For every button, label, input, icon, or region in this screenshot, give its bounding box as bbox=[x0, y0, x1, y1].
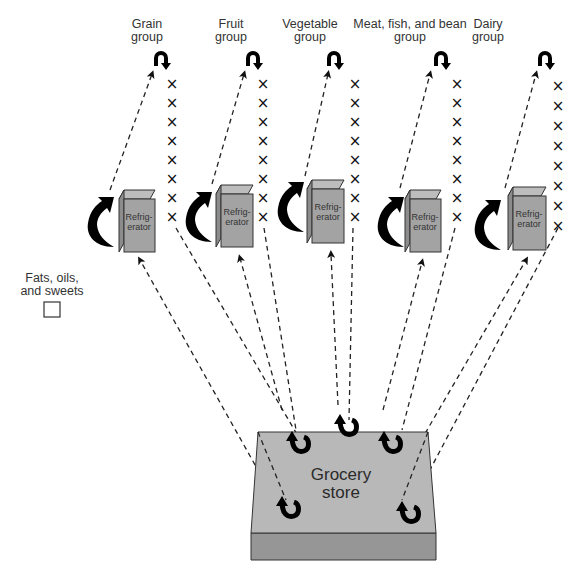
svg-text:×: × bbox=[552, 77, 565, 95]
svg-text:Refrig-: Refrig- bbox=[411, 212, 438, 222]
consume-curl-icon bbox=[540, 53, 555, 70]
svg-text:Grocery: Grocery bbox=[311, 465, 372, 484]
fruit-x-marks: ×× ×× ×× ×× bbox=[257, 75, 270, 226]
svg-text:×: × bbox=[166, 170, 179, 188]
svg-text:×: × bbox=[451, 132, 464, 150]
food-flow-diagram: Graingroup Fruitgroup Vegetablegroup Mea… bbox=[0, 0, 579, 584]
consume-curl-icon bbox=[248, 53, 263, 70]
svg-text:store: store bbox=[322, 483, 360, 502]
svg-text:×: × bbox=[451, 170, 464, 188]
svg-text:×: × bbox=[451, 208, 464, 226]
svg-text:×: × bbox=[552, 97, 565, 115]
svg-text:×: × bbox=[166, 75, 179, 93]
fats-empty-box bbox=[44, 302, 60, 317]
svg-text:×: × bbox=[166, 208, 179, 226]
vegetable-x-marks: ×× ×× ×× ×× bbox=[349, 75, 362, 226]
grocery-store: Grocery store bbox=[251, 432, 436, 560]
diagram-graphics: ×× ×× ×× ×× ×× ×× ×× ×× ×× ×× ×× ×× ×× ×… bbox=[0, 0, 579, 584]
fridge-intake-arrow-icon bbox=[186, 192, 212, 242]
svg-text:×: × bbox=[552, 177, 565, 195]
svg-text:×: × bbox=[451, 75, 464, 93]
consume-curl-icon bbox=[156, 53, 171, 70]
fridge-intake-arrow-icon bbox=[88, 197, 114, 247]
svg-text:erator: erator bbox=[517, 219, 541, 229]
refrigerator-meat: Refrig- erator bbox=[405, 190, 441, 252]
svg-text:×: × bbox=[257, 170, 270, 188]
fridge-intake-arrow-icon bbox=[475, 200, 501, 250]
fridge-intake-arrow-icon bbox=[378, 197, 404, 247]
svg-text:×: × bbox=[257, 94, 270, 112]
svg-text:×: × bbox=[166, 151, 179, 169]
svg-text:×: × bbox=[349, 75, 362, 93]
svg-text:×: × bbox=[257, 151, 270, 169]
svg-text:Refrig-: Refrig- bbox=[125, 212, 152, 222]
svg-text:×: × bbox=[349, 170, 362, 188]
svg-text:×: × bbox=[166, 94, 179, 112]
svg-text:×: × bbox=[166, 189, 179, 207]
svg-text:×: × bbox=[451, 151, 464, 169]
svg-text:Refrig-: Refrig- bbox=[314, 202, 341, 212]
dairy-x-marks: ×× ×× ×× ×× bbox=[552, 77, 565, 235]
fridge-intake-arrow-icon bbox=[278, 182, 304, 232]
svg-text:×: × bbox=[349, 113, 362, 131]
svg-text:×: × bbox=[257, 75, 270, 93]
svg-text:×: × bbox=[349, 189, 362, 207]
svg-text:erator: erator bbox=[225, 217, 249, 227]
svg-text:×: × bbox=[451, 189, 464, 207]
meat-x-marks: ×× ×× ×× ×× bbox=[451, 75, 464, 226]
svg-text:×: × bbox=[349, 208, 362, 226]
svg-text:×: × bbox=[552, 217, 565, 235]
svg-text:×: × bbox=[349, 132, 362, 150]
svg-text:×: × bbox=[257, 208, 270, 226]
svg-text:×: × bbox=[552, 117, 565, 135]
svg-text:×: × bbox=[451, 94, 464, 112]
svg-text:×: × bbox=[451, 113, 464, 131]
svg-text:×: × bbox=[552, 137, 565, 155]
svg-text:×: × bbox=[257, 113, 270, 131]
svg-text:×: × bbox=[349, 151, 362, 169]
refrigerator-dairy: Refrig- erator bbox=[508, 187, 546, 250]
svg-text:erator: erator bbox=[316, 212, 340, 222]
svg-text:erator: erator bbox=[413, 222, 437, 232]
svg-text:Refrig-: Refrig- bbox=[223, 207, 250, 217]
refrigerator-fruit: Refrig- erator bbox=[216, 185, 253, 247]
refrigerator-vegetable: Refrig- erator bbox=[307, 180, 344, 243]
consume-curl-icon bbox=[329, 53, 344, 70]
store-curl-arrow-icon bbox=[334, 414, 357, 434]
svg-text:Refrig-: Refrig- bbox=[515, 209, 542, 219]
svg-text:×: × bbox=[552, 197, 565, 215]
svg-text:×: × bbox=[552, 157, 565, 175]
svg-text:×: × bbox=[166, 113, 179, 131]
refrigerator-grain: Refrig- erator bbox=[119, 190, 155, 252]
svg-text:erator: erator bbox=[127, 222, 151, 232]
grain-x-marks: ×× ×× ×× ×× bbox=[166, 75, 179, 226]
svg-text:×: × bbox=[349, 94, 362, 112]
svg-text:×: × bbox=[166, 132, 179, 150]
consume-curl-icon bbox=[436, 53, 451, 70]
svg-text:×: × bbox=[257, 189, 270, 207]
svg-text:×: × bbox=[257, 132, 270, 150]
